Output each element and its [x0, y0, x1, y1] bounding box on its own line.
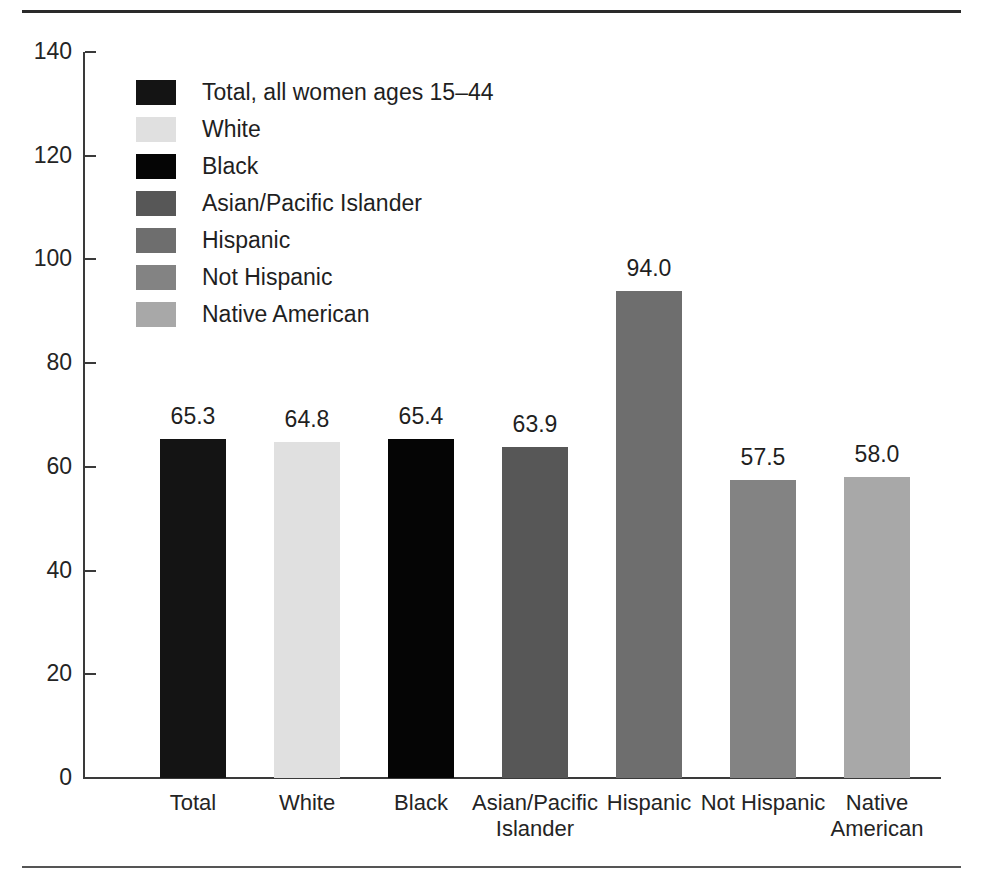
bar-value-label: 65.3 — [138, 405, 248, 428]
bar — [160, 439, 226, 778]
legend-swatch-icon — [136, 154, 176, 179]
legend-item-label: Native American — [202, 301, 369, 328]
y-tick-label: 60 — [0, 455, 72, 478]
y-tick-label: 0 — [0, 766, 72, 789]
x-tick-label: NativeAmerican — [810, 790, 944, 841]
legend-item: Black — [136, 148, 494, 185]
legend-item-label: Not Hispanic — [202, 264, 332, 291]
y-tick-mark — [85, 362, 96, 364]
bar — [616, 291, 682, 778]
bar-value-label: 65.4 — [366, 405, 476, 428]
legend-item: Native American — [136, 296, 494, 333]
bar-value-label: 58.0 — [822, 443, 932, 466]
chart-legend: Total, all women ages 15–44WhiteBlackAsi… — [136, 74, 494, 333]
bar — [844, 477, 910, 778]
legend-swatch-icon — [136, 191, 176, 216]
y-tick-label: 80 — [0, 351, 72, 374]
bar-value-label: 57.5 — [708, 446, 818, 469]
bar-value-label: 94.0 — [594, 257, 704, 280]
y-tick-label: 20 — [0, 662, 72, 685]
legend-swatch-icon — [136, 228, 176, 253]
bar-chart-plot: 140120100806040200 65.364.865.463.994.05… — [0, 0, 983, 876]
bar-value-label: 63.9 — [480, 413, 590, 436]
figure-container: 140120100806040200 65.364.865.463.994.05… — [0, 0, 983, 876]
legend-item-label: Total, all women ages 15–44 — [202, 79, 494, 106]
y-tick-label: 40 — [0, 559, 72, 582]
y-tick-mark — [85, 570, 96, 572]
legend-item: Asian/Pacific Islander — [136, 185, 494, 222]
legend-item-label: Hispanic — [202, 227, 290, 254]
y-tick-mark — [85, 466, 96, 468]
bar — [388, 439, 454, 778]
bar — [274, 442, 340, 778]
legend-swatch-icon — [136, 265, 176, 290]
legend-item: Hispanic — [136, 222, 494, 259]
legend-item: Not Hispanic — [136, 259, 494, 296]
legend-item-label: Asian/Pacific Islander — [202, 190, 422, 217]
y-tick-mark — [85, 673, 96, 675]
y-tick-mark — [85, 777, 96, 779]
legend-swatch-icon — [136, 80, 176, 105]
y-tick-mark — [85, 258, 96, 260]
bar-value-label: 64.8 — [252, 408, 362, 431]
legend-item-label: Black — [202, 153, 258, 180]
bar — [502, 447, 568, 778]
y-tick-mark — [85, 155, 96, 157]
legend-swatch-icon — [136, 302, 176, 327]
y-tick-label: 120 — [0, 144, 72, 167]
y-tick-mark — [85, 51, 96, 53]
y-tick-label: 100 — [0, 247, 72, 270]
y-axis-line — [83, 52, 85, 779]
legend-item: White — [136, 111, 494, 148]
legend-swatch-icon — [136, 117, 176, 142]
legend-item: Total, all women ages 15–44 — [136, 74, 494, 111]
bar — [730, 480, 796, 778]
y-tick-label: 140 — [0, 40, 72, 63]
legend-item-label: White — [202, 116, 261, 143]
